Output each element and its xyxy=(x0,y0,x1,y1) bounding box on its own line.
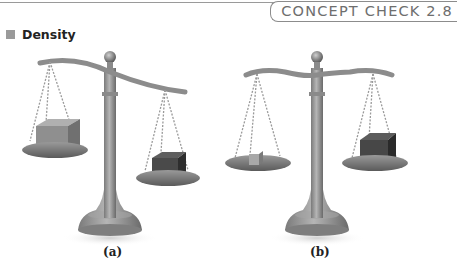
square-bullet-icon xyxy=(6,30,15,39)
concept-check-tab: CONCEPT CHECK 2.8 xyxy=(270,1,457,22)
panel-label-a: (a) xyxy=(103,245,122,259)
panel-label-b: (b) xyxy=(310,245,330,259)
balance-figure xyxy=(0,40,457,245)
balance-a xyxy=(22,51,200,245)
balance-b xyxy=(225,51,408,245)
